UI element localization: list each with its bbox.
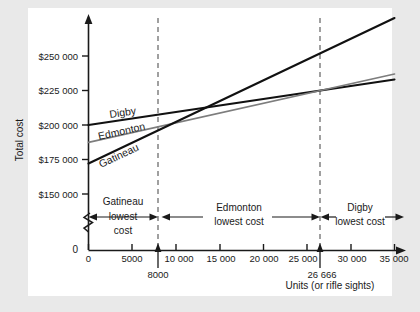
range-annotation-edmonton-arrow-right-icon: [312, 214, 321, 221]
range-annotation-edmonton: Edmonton lowest cost: [162, 202, 321, 227]
range-annotation-digby-line2: lowest cost: [335, 216, 385, 227]
y-tick-label-250000: $250 000: [38, 51, 78, 62]
range-annotation-digby-line1: Digby: [347, 202, 373, 213]
y-axis-title: Total cost: [14, 119, 25, 161]
x-tick-label-20000: 20 000: [249, 253, 278, 264]
range-annotation-gatineau-line2: lowest: [109, 211, 138, 222]
x-axis-title: Units (or rifle sights): [286, 280, 375, 291]
range-annotation-digby: Digby lowest cost: [321, 202, 405, 227]
range-annotation-gatineau-line3: cost: [114, 225, 133, 236]
y-axis-arrow-icon: [85, 14, 93, 24]
x-tick-label-10000: 10 000: [164, 253, 193, 264]
series-inline-labels: Digby Edmonton Gatineau: [97, 104, 147, 170]
range-annotation-gatineau-line1: Gatineau: [103, 196, 144, 207]
x-tick-label-15000: 15 000: [206, 253, 235, 264]
y-axis-origin-label: 0: [72, 244, 78, 255]
range-annotation-gatineau-arrow-right-icon: [150, 214, 159, 221]
crossover-label-8000: 8000: [147, 269, 168, 280]
chart-figure: $250 000 $225 000 $200 000 $175 000 $150…: [0, 0, 420, 312]
x-tick-label-5000: 5000: [121, 253, 142, 264]
range-annotation-edmonton-line2: lowest cost: [214, 216, 264, 227]
x-tick-label-0: 0: [86, 253, 91, 264]
x-axis-tick-labels: 0 5000 10 000 15 000 20 000 25 000 30 00…: [86, 253, 409, 264]
y-tick-label-175000: $175 000: [38, 154, 78, 165]
range-annotation-gatineau: Gatineau lowest cost: [89, 196, 159, 236]
x-tick-label-35000: 35 000: [379, 253, 408, 264]
y-tick-label-200000: $200 000: [38, 120, 78, 131]
range-annotation-digby-arrow-left-icon: [321, 214, 330, 221]
crossover-label-26666: 26 666: [307, 269, 336, 280]
crossover-pointer-26666-arrow-icon: [317, 243, 324, 252]
crossover-pointer-8000-arrow-icon: [155, 243, 162, 252]
y-tick-label-225000: $225 000: [38, 85, 78, 96]
y-axis-tick-labels: $250 000 $225 000 $200 000 $175 000 $150…: [38, 51, 78, 256]
series-label-gatineau: Gatineau: [97, 141, 141, 170]
x-tick-label-25000: 25 000: [288, 253, 317, 264]
range-annotation-edmonton-arrow-left-icon: [162, 214, 171, 221]
cost-comparison-line-chart: $250 000 $225 000 $200 000 $175 000 $150…: [0, 0, 420, 312]
range-annotation-digby-arrow-right-icon: [396, 214, 405, 221]
x-axis-ticks: [89, 244, 395, 250]
series-line-digby: [89, 80, 395, 126]
y-tick-label-150000: $150 000: [38, 189, 78, 200]
x-tick-label-30000: 30 000: [337, 253, 366, 264]
range-annotation-edmonton-line1: Edmonton: [216, 202, 262, 213]
range-annotation-gatineau-arrow-left-icon: [89, 214, 98, 221]
chart-canvas: $250 000 $225 000 $200 000 $175 000 $150…: [0, 0, 420, 312]
